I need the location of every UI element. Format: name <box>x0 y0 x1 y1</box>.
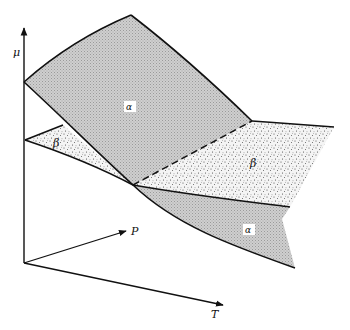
diagram-canvas: μ P T α β β α <box>0 0 350 330</box>
phase-diagram-figure: μ P T α β β α <box>0 0 350 330</box>
beta-left-label: β <box>52 137 59 150</box>
p-axis <box>24 231 126 263</box>
beta-right-label: β <box>249 157 256 170</box>
alpha-lower-label: α <box>245 225 251 235</box>
t-axis <box>24 263 223 305</box>
alpha-upper-label: α <box>126 102 132 112</box>
t-axis-label: T <box>211 308 220 321</box>
mu-axis-label: μ <box>13 46 20 59</box>
p-axis-label: P <box>130 225 139 238</box>
